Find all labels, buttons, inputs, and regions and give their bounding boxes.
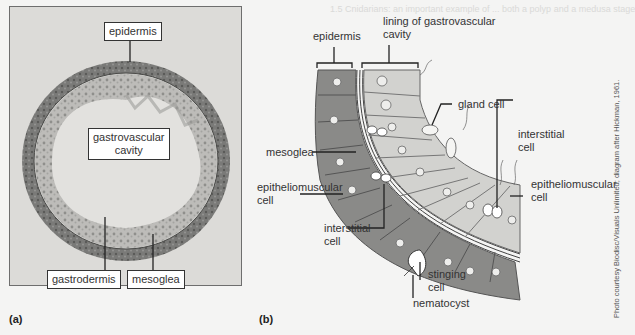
label-gastrodermis: gastrodermis <box>47 270 121 289</box>
label-mesoglea-b: mesoglea <box>266 146 314 159</box>
photo-credit: Photo courtesy Biodisc/Visuals Unlimited… <box>612 80 621 318</box>
label-epitheliomuscular-right-2: cell <box>531 191 548 204</box>
label-interstitial-right-2: cell <box>518 141 535 154</box>
label-mesoglea-a: mesoglea <box>127 270 185 289</box>
panel-label-b: (b) <box>259 313 273 325</box>
label-lining-line1: lining of gastrovascular <box>383 15 496 28</box>
label-interstitial-left-2: cell <box>324 235 341 248</box>
label-gland-cell: gland cell <box>458 98 504 111</box>
label-epidermis-b: epidermis <box>313 30 361 43</box>
label-epitheliomuscular-right-1: epitheliomuscular <box>531 178 617 191</box>
label-epitheliomuscular-left-2: cell <box>257 194 274 207</box>
label-epitheliomuscular-left-1: epitheliomuscular <box>257 181 343 194</box>
panel-label-a: (a) <box>9 313 22 325</box>
label-gastrovascular-cavity: gastrovascular cavity <box>88 128 170 160</box>
label-lining-line2: cavity <box>383 28 411 41</box>
label-interstitial-right-1: interstitial <box>518 128 564 141</box>
label-gastrovascular-line1: gastrovascular <box>93 131 165 144</box>
label-interstitial-left-1: interstitial <box>324 222 370 235</box>
label-nematocyst: nematocyst <box>413 297 469 310</box>
label-stinging-1: stinging <box>428 268 466 281</box>
label-stinging-2: cell <box>428 281 445 294</box>
label-epidermis-a: epidermis <box>104 22 162 41</box>
label-gastrovascular-line2: cavity <box>93 144 165 157</box>
